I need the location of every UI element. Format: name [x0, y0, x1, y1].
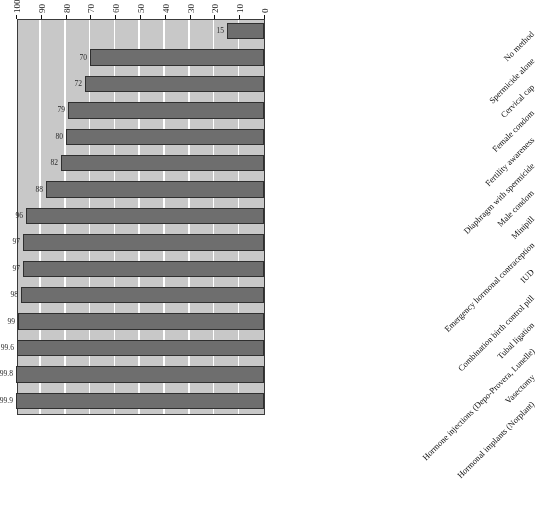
axis-tick-label: 20 — [211, 4, 220, 13]
bars-layer: 99.999.899.6999897979688828079727015 — [18, 20, 264, 414]
bar-value-label: 97 — [13, 265, 21, 273]
bar-value-label: 70 — [80, 54, 88, 62]
axis-tick-label: 40 — [162, 4, 171, 13]
axis-tick-mark — [115, 15, 116, 19]
category-label: Emergency hormonal contraception — [443, 241, 536, 334]
bar-value-label: 88 — [35, 186, 43, 194]
bar — [68, 102, 264, 118]
bar — [23, 261, 264, 277]
bar-row: 79 — [16, 102, 264, 118]
bar — [46, 181, 264, 197]
category-label: Hormone injections (Depo-Provera, Lunell… — [421, 347, 536, 462]
axis-tick-mark — [16, 15, 17, 19]
bar-value-label: 79 — [58, 107, 66, 115]
bar-row: 98 — [16, 287, 264, 303]
axis-tick-mark — [90, 15, 91, 19]
bar-row: 88 — [16, 181, 264, 197]
axis-tick-mark — [41, 15, 42, 19]
value-axis: 1009080706050403020100 — [17, 0, 265, 19]
axis-tick-mark — [66, 15, 67, 19]
bar-value-label: 97 — [13, 239, 21, 247]
bar — [61, 155, 264, 171]
bar-row: 97 — [16, 261, 264, 277]
bar-value-label: 99.8 — [0, 371, 13, 379]
bar-value-label: 80 — [55, 133, 63, 141]
bar — [85, 76, 264, 92]
bar-value-label: 99.9 — [0, 397, 13, 405]
axis-tick-mark — [239, 15, 240, 19]
axis-tick-label: 30 — [187, 4, 196, 13]
axis-tick-label: 70 — [87, 4, 96, 13]
axis-tick-mark — [140, 15, 141, 19]
bar — [17, 366, 265, 382]
bar-row: 70 — [16, 49, 264, 65]
bar-row: 99.9 — [16, 393, 264, 409]
bar-row: 99 — [16, 313, 264, 329]
bar — [18, 313, 264, 329]
bar-value-label: 99.6 — [1, 344, 14, 352]
axis-tick-label: 10 — [236, 4, 245, 13]
bar-value-label: 96 — [15, 212, 23, 220]
bar-value-label: 99 — [8, 318, 16, 326]
bar-row: 99.8 — [16, 366, 264, 382]
bar-row: 97 — [16, 234, 264, 250]
axis-tick-mark — [214, 15, 215, 19]
bar — [23, 234, 264, 250]
bar-value-label: 82 — [50, 159, 58, 167]
category-label: IUD — [519, 267, 536, 284]
bar-row: 99.6 — [16, 340, 264, 356]
bar-row: 80 — [16, 129, 264, 145]
bar-value-label: 15 — [216, 27, 224, 35]
axis-tick-mark — [165, 15, 166, 19]
axis-tick-label: 100 — [13, 0, 22, 13]
bar-row: 82 — [16, 155, 264, 171]
axis-tick-label: 90 — [38, 4, 47, 13]
bar — [21, 287, 264, 303]
bar — [227, 23, 264, 39]
bar — [90, 49, 264, 65]
bar-row: 15 — [16, 23, 264, 39]
bar-row: 96 — [16, 208, 264, 224]
bar — [26, 208, 264, 224]
category-axis-labels: Hormonal implants (Norplant)VasectomyHor… — [262, 0, 452, 517]
axis-tick-label: 50 — [137, 4, 146, 13]
axis-tick-label: 80 — [63, 4, 72, 13]
bar-value-label: 98 — [10, 291, 18, 299]
bar — [17, 340, 264, 356]
bar — [66, 129, 264, 145]
bar — [16, 393, 264, 409]
bar-row: 72 — [16, 76, 264, 92]
axis-tick-mark — [190, 15, 191, 19]
axis-tick-label: 60 — [112, 4, 121, 13]
plot-area: 99.999.899.6999897979688828079727015 — [17, 19, 265, 415]
category-label: Minipill — [510, 215, 536, 241]
bar-value-label: 72 — [75, 80, 83, 88]
